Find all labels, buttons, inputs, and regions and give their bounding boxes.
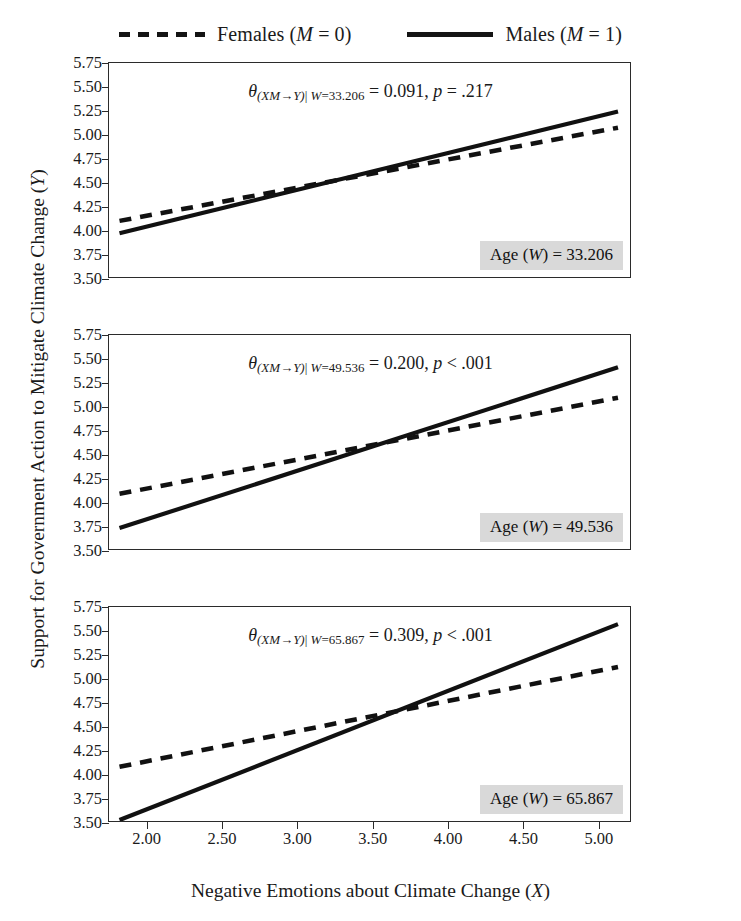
x-tick-label: 2.00 [132, 831, 161, 848]
y-tick-mark [102, 183, 109, 184]
x-tick-mark [147, 821, 148, 829]
panel-age-65: θ(XM→Y)| W=65.867 = 0.309, p < .001 Age … [108, 606, 631, 822]
y-tick-mark [102, 359, 109, 360]
legend-label-females: Females (M = 0) [217, 23, 351, 46]
y-tick-mark [102, 455, 109, 456]
y-tick-mark [102, 383, 109, 384]
y-tick-label: 4.75 [40, 695, 102, 712]
y-tick-mark [102, 751, 109, 752]
y-tick-label: 3.50 [40, 543, 102, 560]
y-tick-label: 5.25 [40, 375, 102, 392]
x-axis-title: Negative Emotions about Climate Change (… [0, 880, 741, 902]
y-tick-label: 4.00 [40, 767, 102, 784]
solid-line-key-icon [407, 32, 493, 37]
y-tick-label: 5.25 [40, 103, 102, 120]
x-tick-mark [297, 821, 298, 829]
y-tick-mark [102, 231, 109, 232]
y-tick-label: 4.50 [40, 719, 102, 736]
panel-2-age-badge: Age (W) = 65.867 [480, 785, 623, 814]
panel-stack: θ(XM→Y)| W=33.206 = 0.091, p = .217 Age … [108, 62, 631, 834]
x-tick-mark [373, 821, 374, 829]
y-tick-mark [102, 279, 109, 280]
y-tick-mark [102, 775, 109, 776]
panel-0-age-badge: Age (W) = 33.206 [480, 241, 623, 270]
y-tick-mark [102, 431, 109, 432]
y-tick-mark [102, 255, 109, 256]
x-tick-label: 4.00 [434, 831, 463, 848]
y-tick-label: 5.00 [40, 399, 102, 416]
y-tick-label: 4.25 [40, 743, 102, 760]
panel-2-theta-annotation: θ(XM→Y)| W=65.867 = 0.309, p < .001 [109, 625, 632, 648]
line-males [120, 367, 618, 528]
y-tick-label: 5.50 [40, 351, 102, 368]
x-tick-mark [448, 821, 449, 829]
y-tick-label: 5.75 [40, 599, 102, 616]
x-tick-mark [599, 821, 600, 829]
y-tick-label: 5.00 [40, 671, 102, 688]
y-tick-mark [102, 159, 109, 160]
panel-0-theta-annotation: θ(XM→Y)| W=33.206 = 0.091, p = .217 [109, 81, 632, 104]
y-tick-mark [102, 335, 109, 336]
y-tick-label: 4.75 [40, 151, 102, 168]
y-tick-label: 4.25 [40, 471, 102, 488]
y-tick-mark [102, 679, 109, 680]
y-tick-label: 4.00 [40, 223, 102, 240]
chart-legend: Females (M = 0) Males (M = 1) [0, 14, 741, 54]
legend-item-females: Females (M = 0) [119, 23, 351, 46]
y-tick-label: 3.75 [40, 247, 102, 264]
dashed-line-key-icon [119, 32, 205, 37]
line-females [120, 667, 618, 767]
y-tick-mark [102, 551, 109, 552]
legend-item-males: Males (M = 1) [407, 23, 621, 46]
panel-1-theta-annotation: θ(XM→Y)| W=49.536 = 0.200, p < .001 [109, 353, 632, 376]
y-tick-label: 5.50 [40, 79, 102, 96]
y-tick-label: 5.00 [40, 127, 102, 144]
y-tick-label: 5.50 [40, 623, 102, 640]
y-tick-label: 3.75 [40, 791, 102, 808]
y-tick-label: 5.25 [40, 647, 102, 664]
y-tick-label: 4.75 [40, 423, 102, 440]
y-tick-label: 4.00 [40, 495, 102, 512]
y-tick-mark [102, 111, 109, 112]
x-tick-label: 3.00 [283, 831, 312, 848]
y-tick-label: 5.75 [40, 55, 102, 72]
y-tick-mark [102, 135, 109, 136]
y-tick-mark [102, 607, 109, 608]
y-tick-mark [102, 727, 109, 728]
y-tick-mark [102, 703, 109, 704]
x-tick-label: 2.50 [208, 831, 237, 848]
y-tick-mark [102, 407, 109, 408]
y-tick-mark [102, 631, 109, 632]
y-tick-mark [102, 63, 109, 64]
y-tick-label: 4.50 [40, 447, 102, 464]
x-tick-label: 5.00 [584, 831, 613, 848]
x-tick-mark [523, 821, 524, 829]
y-tick-mark [102, 655, 109, 656]
y-tick-label: 3.50 [40, 271, 102, 288]
x-tick-label: 4.50 [509, 831, 538, 848]
y-tick-mark [102, 799, 109, 800]
x-tick-mark [222, 821, 223, 829]
y-tick-mark [102, 823, 109, 824]
panel-1-age-badge: Age (W) = 49.536 [480, 513, 623, 542]
y-tick-mark [102, 87, 109, 88]
legend-label-males: Males (M = 1) [505, 23, 621, 46]
y-tick-label: 3.75 [40, 519, 102, 536]
panel-age-49: θ(XM→Y)| W=49.536 = 0.200, p < .001 Age … [108, 334, 631, 550]
y-tick-label: 4.50 [40, 175, 102, 192]
y-tick-mark [102, 527, 109, 528]
y-tick-mark [102, 207, 109, 208]
y-tick-mark [102, 479, 109, 480]
y-tick-label: 5.75 [40, 327, 102, 344]
line-males [120, 112, 618, 234]
x-tick-label: 3.50 [358, 831, 387, 848]
y-tick-label: 4.25 [40, 199, 102, 216]
y-tick-label: 3.50 [40, 815, 102, 832]
panel-age-33: θ(XM→Y)| W=33.206 = 0.091, p = .217 Age … [108, 62, 631, 278]
y-tick-mark [102, 503, 109, 504]
